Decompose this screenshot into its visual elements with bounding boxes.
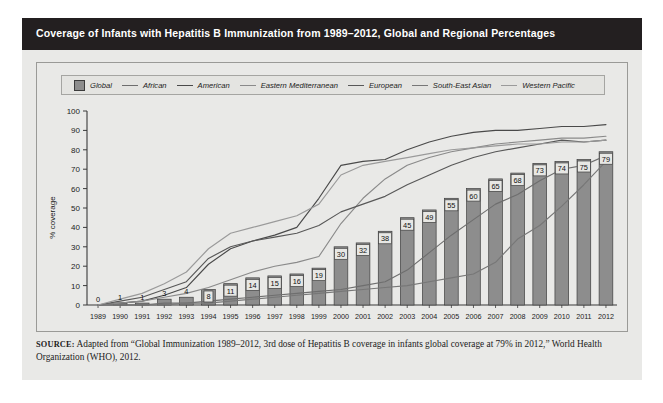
- x-tick-label: 1995: [223, 312, 239, 321]
- x-tick-label: 2005: [443, 312, 459, 321]
- y-tick-label: 0: [76, 301, 81, 310]
- bar-value-label: 74: [558, 164, 566, 173]
- bar-value-label: 1: [140, 293, 144, 302]
- x-tick-label: 2012: [598, 312, 614, 321]
- bar-value-label: 3: [162, 289, 166, 298]
- bar-value-label: 73: [536, 166, 544, 175]
- bar-value-label: 45: [403, 221, 411, 230]
- bar-value-label: 60: [469, 192, 477, 201]
- x-tick-label: 1999: [311, 312, 327, 321]
- x-tick-label: 2006: [465, 312, 481, 321]
- bar-value-label: 4: [184, 287, 188, 296]
- x-tick-label: 1994: [200, 312, 216, 321]
- chart-plot-area: 0102030405060708090100198919901991199219…: [37, 63, 629, 333]
- figure-container: Coverage of Infants with Hepatitis B Imm…: [22, 18, 642, 380]
- x-tick-label: 2008: [510, 312, 526, 321]
- x-tick-label: 2001: [355, 312, 371, 321]
- x-tick-label: 1992: [156, 312, 172, 321]
- y-tick-label: 100: [67, 107, 81, 116]
- bar-value-label: 1: [118, 293, 122, 302]
- chart-panel: GlobalAfricanAmericanEastern Mediterrane…: [36, 62, 628, 332]
- bar[interactable]: [599, 152, 613, 305]
- bar[interactable]: [489, 179, 503, 305]
- page-title: Coverage of Infants with Hepatitis B Imm…: [36, 27, 555, 39]
- bar-value-label: 19: [315, 271, 323, 280]
- line-series: [98, 161, 606, 305]
- bar-value-label: 30: [337, 250, 345, 259]
- x-tick-label: 1993: [178, 312, 194, 321]
- bar[interactable]: [577, 160, 591, 306]
- bar-value-label: 11: [227, 287, 235, 296]
- line-series: [98, 156, 606, 305]
- source-prefix: SOURCE:: [36, 340, 75, 349]
- x-tick-label: 2004: [421, 312, 437, 321]
- y-tick-label: 10: [71, 282, 80, 291]
- x-tick-label: 2010: [554, 312, 570, 321]
- y-tick-label: 50: [71, 204, 80, 213]
- y-tick-label: 30: [71, 243, 80, 252]
- x-tick-label: 2002: [377, 312, 393, 321]
- bar-value-label: 14: [249, 281, 257, 290]
- x-tick-label: 1990: [112, 312, 128, 321]
- bar-value-label: 32: [359, 246, 367, 255]
- bar[interactable]: [445, 198, 459, 305]
- x-tick-label: 1991: [134, 312, 150, 321]
- x-tick-label: 2009: [532, 312, 548, 321]
- bar-value-label: 15: [271, 279, 279, 288]
- source-note: SOURCE: Adapted from “Global Immunizatio…: [36, 338, 622, 363]
- bar[interactable]: [555, 161, 569, 305]
- x-tick-label: 2000: [333, 312, 349, 321]
- x-tick-label: 1997: [267, 312, 283, 321]
- bar[interactable]: [422, 210, 436, 305]
- bar-value-label: 55: [447, 201, 455, 210]
- title-bar: Coverage of Infants with Hepatitis B Imm…: [22, 18, 642, 50]
- source-text: Adapted from “Global Immunization 1989–2…: [36, 339, 602, 362]
- y-tick-label: 20: [71, 262, 80, 271]
- bar-value-label: 8: [206, 292, 210, 301]
- bar-value-label: 49: [425, 213, 433, 222]
- x-tick-label: 2007: [488, 312, 504, 321]
- x-tick-label: 1989: [90, 312, 106, 321]
- bar[interactable]: [533, 163, 547, 305]
- line-series: [98, 136, 606, 305]
- y-tick-label: 90: [71, 126, 80, 135]
- bar-value-label: 38: [381, 234, 389, 243]
- line-series: [98, 140, 606, 305]
- x-tick-label: 2003: [399, 312, 415, 321]
- bar-value-label: 0: [96, 295, 100, 304]
- bar[interactable]: [467, 189, 481, 305]
- x-tick-label: 1998: [289, 312, 305, 321]
- bar-value-label: 65: [491, 182, 499, 191]
- bar-value-label: 68: [514, 176, 522, 185]
- line-series: [98, 140, 606, 305]
- y-tick-label: 40: [71, 223, 80, 232]
- x-tick-label: 2011: [576, 312, 591, 321]
- y-tick-label: 80: [71, 146, 80, 155]
- y-tick-label: 70: [71, 165, 80, 174]
- bar-value-label: 79: [602, 155, 610, 164]
- bar-value-label: 16: [293, 277, 301, 286]
- y-tick-label: 60: [71, 185, 80, 194]
- bar[interactable]: [400, 218, 414, 305]
- x-tick-label: 1996: [245, 312, 261, 321]
- bar-value-label: 75: [580, 163, 588, 172]
